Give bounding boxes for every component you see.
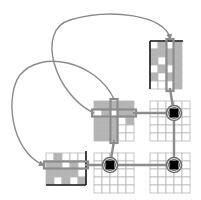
cell-empty (158, 101, 166, 109)
cell-filled (174, 65, 182, 73)
cell-filled (54, 169, 62, 177)
cell-empty (118, 177, 126, 185)
cell-filled (174, 49, 182, 57)
cell-empty (118, 169, 126, 177)
cell-empty (70, 177, 78, 185)
cell-empty (46, 153, 54, 161)
cell-empty (110, 177, 118, 185)
cell-filled (54, 153, 62, 161)
diagram-canvas (0, 0, 201, 200)
cell-empty (158, 81, 166, 89)
cell-filled (102, 133, 110, 141)
cell-empty (182, 169, 190, 177)
cell-filled (78, 177, 86, 185)
cell-filled (102, 101, 110, 109)
cell-empty (158, 73, 166, 81)
cell-empty (182, 133, 190, 141)
cell-empty (150, 101, 158, 109)
cell-empty (126, 169, 134, 177)
cell-filled (174, 81, 182, 89)
cell-empty (102, 185, 110, 193)
cell-filled (150, 73, 158, 81)
cell-filled (102, 125, 110, 133)
node-square (170, 109, 179, 118)
cell-empty (174, 177, 182, 185)
node-square (170, 161, 179, 170)
cell-empty (94, 153, 102, 161)
cell-filled (158, 41, 166, 49)
bottom-right-block-node (167, 158, 182, 173)
cell-empty (118, 125, 126, 133)
cell-empty (182, 109, 190, 117)
cell-empty (182, 125, 190, 133)
bottom-center-block-node (103, 158, 118, 173)
cell-filled (118, 101, 126, 109)
cell-empty (150, 169, 158, 177)
arrow-layer (12, 14, 170, 165)
cell-filled (150, 57, 158, 65)
center-block (94, 101, 134, 141)
cell-empty (126, 177, 134, 185)
cell-empty (118, 117, 126, 125)
cell-empty (182, 117, 190, 125)
cell-empty (150, 125, 158, 133)
cell-empty (158, 177, 166, 185)
cell-empty (118, 153, 126, 161)
cell-empty (166, 177, 174, 185)
cell-filled (126, 101, 134, 109)
cell-filled (94, 125, 102, 133)
cell-empty (150, 133, 158, 141)
cell-empty (158, 57, 166, 65)
cell-empty (182, 185, 190, 193)
cell-empty (150, 117, 158, 125)
right-middle-block-node (167, 106, 182, 121)
cell-empty (126, 133, 134, 141)
cell-empty (70, 153, 78, 161)
cell-empty (126, 153, 134, 161)
cell-empty (54, 177, 62, 185)
cell-empty (158, 117, 166, 125)
cell-empty (102, 177, 110, 185)
cell-filled (174, 73, 182, 81)
cell-empty (166, 185, 174, 193)
cell-empty (62, 153, 70, 161)
cell-filled (174, 41, 182, 49)
cell-empty (78, 169, 86, 177)
cell-empty (182, 177, 190, 185)
cell-empty (150, 65, 158, 73)
cell-empty (158, 153, 166, 161)
cell-filled (62, 177, 70, 185)
cell-empty (126, 125, 134, 133)
cell-empty (182, 101, 190, 109)
cell-filled (94, 101, 102, 109)
node-square (106, 161, 115, 170)
cell-filled (150, 49, 158, 57)
cell-empty (126, 185, 134, 193)
cell-filled (126, 117, 134, 125)
cell-empty (158, 169, 166, 177)
cell-empty (118, 133, 126, 141)
cell-filled (158, 49, 166, 57)
cell-filled (70, 169, 78, 177)
cell-empty (78, 153, 86, 161)
cell-filled (94, 117, 102, 125)
cell-empty (158, 185, 166, 193)
cell-empty (150, 153, 158, 161)
cell-empty (150, 185, 158, 193)
cell-empty (110, 185, 118, 193)
cell-empty (182, 153, 190, 161)
cell-filled (158, 65, 166, 73)
cell-empty (182, 161, 190, 169)
cell-empty (94, 169, 102, 177)
cell-empty (118, 185, 126, 193)
cell-empty (158, 125, 166, 133)
cell-filled (174, 57, 182, 65)
cell-empty (150, 177, 158, 185)
cell-empty (158, 133, 166, 141)
cell-empty (150, 41, 158, 49)
cell-filled (46, 169, 54, 177)
cell-filled (94, 133, 102, 141)
cell-filled (102, 117, 110, 125)
cell-empty (150, 81, 158, 89)
cell-empty (94, 185, 102, 193)
